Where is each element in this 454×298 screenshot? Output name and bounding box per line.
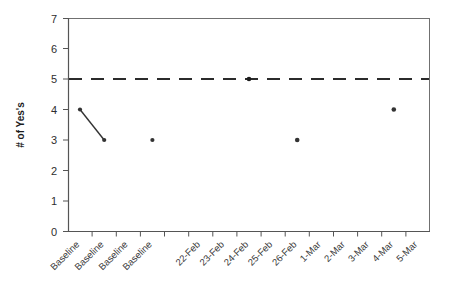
y-axis-title: # of Yes's — [15, 102, 26, 148]
y-tick-label-5: 5 — [51, 73, 57, 85]
y-tick-label-4: 4 — [51, 104, 57, 116]
y-tick-label-1: 1 — [51, 195, 57, 207]
data-point-4-mar — [392, 107, 397, 112]
y-tick-label-2: 2 — [51, 165, 57, 177]
data-point-26-feb — [295, 138, 300, 143]
scatter-chart: 0 1 2 3 4 5 6 7 # of Yes's — [0, 0, 454, 298]
y-tick-label-7: 7 — [51, 13, 57, 25]
data-point-baseline-2 — [102, 138, 106, 142]
data-point-25-feb — [247, 77, 252, 82]
y-tick-label-0: 0 — [51, 226, 57, 238]
chart-container: 0 1 2 3 4 5 6 7 # of Yes's — [0, 0, 454, 298]
y-tick-label-3: 3 — [51, 134, 57, 146]
data-point-baseline-1 — [78, 107, 82, 111]
data-point-baseline-4 — [150, 138, 154, 142]
y-tick-label-6: 6 — [51, 43, 57, 55]
